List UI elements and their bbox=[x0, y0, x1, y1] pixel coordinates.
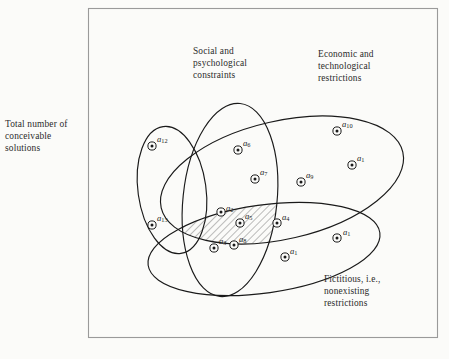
point-dot bbox=[254, 178, 257, 181]
point-label-a5: a5 bbox=[245, 211, 253, 221]
point-dot bbox=[237, 149, 240, 152]
point-label-a9: a9 bbox=[306, 170, 314, 180]
point-label-a1r: a1 bbox=[343, 227, 351, 237]
point-dot bbox=[300, 181, 303, 184]
solution-point-a11 bbox=[348, 161, 356, 169]
point-label-a3: a3 bbox=[219, 236, 227, 246]
point-dot bbox=[151, 145, 154, 148]
solution-point-a13 bbox=[148, 221, 156, 229]
label-fictitious-restrictions: Fictitious, i.e., nonexisting restrictio… bbox=[324, 273, 428, 310]
label-economic-restrictions: Economic and technological restrictions bbox=[318, 48, 416, 85]
point-dot bbox=[151, 224, 154, 227]
solution-point-a8 bbox=[230, 241, 238, 249]
point-dot bbox=[239, 222, 242, 225]
point-dot bbox=[220, 211, 223, 214]
solution-point-a7 bbox=[251, 175, 259, 183]
social-constraints-ellipse bbox=[173, 99, 287, 302]
figure-canvas: Total number of conceivable solutions So… bbox=[0, 0, 449, 359]
point-dot bbox=[336, 130, 339, 133]
solution-point-a1r bbox=[333, 234, 341, 242]
solution-point-a6 bbox=[234, 146, 242, 154]
point-dot bbox=[336, 237, 339, 240]
point-label-a13: a13 bbox=[157, 213, 168, 223]
point-dot bbox=[284, 256, 287, 259]
solution-point-a12 bbox=[148, 142, 156, 150]
solution-point-a3 bbox=[210, 244, 218, 252]
point-label-a11: a1 bbox=[357, 153, 365, 163]
point-dot bbox=[351, 164, 354, 167]
point-label-a10: a10 bbox=[342, 119, 353, 129]
solution-point-a10 bbox=[333, 127, 341, 135]
point-label-a7: a7 bbox=[260, 167, 268, 177]
economic-restrictions-ellipse bbox=[148, 95, 416, 266]
point-label-a12: a12 bbox=[157, 134, 168, 144]
point-dot bbox=[276, 222, 279, 225]
point-label-a1b: a1 bbox=[290, 246, 298, 256]
solution-point-a2 bbox=[217, 208, 225, 216]
point-label-a4: a4 bbox=[282, 212, 290, 222]
point-label-a8: a8 bbox=[239, 234, 247, 244]
point-label-a2: a2 bbox=[226, 203, 234, 213]
point-dot bbox=[213, 247, 216, 250]
label-social-constraints: Social and psychological constraints bbox=[193, 45, 279, 82]
label-total-solutions: Total number of conceivable solutions bbox=[5, 118, 91, 155]
solution-point-a1b bbox=[281, 253, 289, 261]
solution-point-a4 bbox=[273, 219, 281, 227]
point-label-a6: a6 bbox=[243, 138, 251, 148]
solution-point-a5 bbox=[236, 219, 244, 227]
solution-point-a9 bbox=[297, 178, 305, 186]
point-dot bbox=[233, 244, 236, 247]
